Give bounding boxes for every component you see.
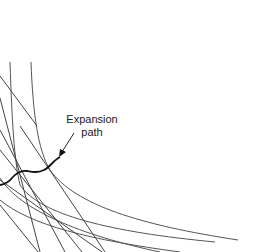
isoquant-3 <box>0 200 180 252</box>
isocost-line-4 <box>0 180 102 252</box>
isoquant-1 <box>10 62 215 242</box>
label-line-2: path <box>64 126 120 139</box>
isoquant-curves <box>0 62 238 252</box>
expansion-path-label: Expansion path <box>64 113 120 139</box>
isocost-line-3 <box>0 150 82 252</box>
arrowhead-icon <box>59 149 66 157</box>
label-line-1: Expansion <box>64 113 120 126</box>
diagram-canvas <box>0 0 256 252</box>
isocost-line-6 <box>20 126 105 252</box>
